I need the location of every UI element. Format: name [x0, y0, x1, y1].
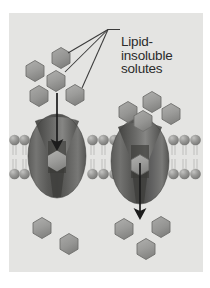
solute-hexagon	[152, 217, 170, 238]
label-leader-lines	[65, 30, 120, 89]
solute-cluster-intracellular	[33, 217, 170, 260]
solute-hexagon	[52, 48, 70, 69]
solute-hexagon	[33, 218, 51, 239]
label-line-2: insoluble	[121, 49, 173, 63]
diagram-canvas	[9, 13, 203, 272]
solute-hexagon	[137, 239, 155, 260]
label-line-3: solutes	[121, 62, 173, 76]
solute-hexagon	[30, 86, 48, 107]
solute-hexagon	[47, 71, 65, 92]
solute-hexagon	[115, 219, 133, 240]
label-line-1: Lipid-	[121, 35, 173, 49]
lipid-insoluble-solutes-label: Lipid- insoluble solutes	[121, 35, 173, 76]
leader-line-3	[82, 30, 108, 89]
figure-root: Lipid- insoluble solutes	[0, 0, 210, 288]
solute-hexagon	[60, 234, 78, 255]
solute-hexagon	[66, 85, 84, 106]
solute-hexagon	[162, 104, 180, 125]
solute-hexagon	[26, 61, 44, 82]
membrane-transport-diagram-panel: Lipid- insoluble solutes	[9, 13, 203, 272]
solute-hexagon	[143, 92, 161, 113]
lipid-tails-right	[172, 145, 197, 169]
solute-cluster-extracellular-left	[26, 48, 84, 107]
